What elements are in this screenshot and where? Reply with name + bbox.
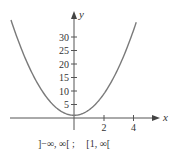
parabola-chart: x y 5 10 15 20 25 30 2 4 (0, 0, 171, 155)
y-axis-arrow-icon (71, 11, 77, 19)
y-tick-label: 5 (64, 99, 69, 110)
y-tick-label: 25 (59, 45, 69, 56)
x-tick-label: 4 (131, 122, 136, 133)
x-axis-label: x (162, 111, 168, 123)
domain-range-caption: ]−∞, ∞[ ; [1, ∞[ (38, 138, 119, 149)
y-tick-label: 30 (59, 32, 69, 43)
domain-text: ]−∞, ∞[ ; (38, 138, 75, 149)
x-tick-label: 2 (102, 122, 107, 133)
x-axis-arrow-icon (152, 115, 160, 121)
y-tick-label: 20 (59, 59, 69, 70)
range-text: [1, ∞[ (86, 138, 110, 149)
y-axis-label: y (78, 8, 84, 20)
y-tick-label: 15 (59, 72, 69, 83)
y-tick-label: 10 (59, 86, 69, 97)
